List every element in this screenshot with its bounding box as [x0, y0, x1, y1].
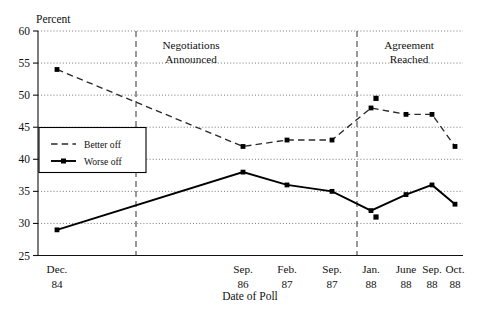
data-point-marker — [430, 183, 435, 188]
x-tick-label-year-1: 86 — [237, 278, 249, 290]
data-point-marker — [241, 144, 246, 149]
y-tick-label: 60 — [19, 25, 31, 37]
x-tick-label-month-6: Sep. — [422, 263, 442, 275]
x-tick-label-month-7: Oct. — [446, 263, 465, 275]
legend: Better off Worse off — [39, 128, 146, 173]
y-tick-label: 25 — [19, 250, 31, 262]
x-tick-label-year-3: 87 — [326, 278, 338, 290]
chart-svg: 2530354045505560 Percent Dec.84Sep.86Feb… — [0, 0, 479, 323]
x-tick-label-year-5: 88 — [400, 278, 412, 290]
y-tick-label: 35 — [19, 185, 31, 197]
x-tick-label-year-0: 84 — [51, 278, 63, 290]
y-tick-labels-group: 2530354045505560 — [19, 25, 31, 262]
y-tick-marks-group — [33, 31, 38, 256]
data-point-marker — [241, 170, 246, 175]
annotation-1-line1: Agreement — [384, 39, 435, 51]
annotation-0-line2: Announced — [165, 53, 217, 65]
annotation-1-line2: Reached — [390, 53, 429, 65]
annotation-0-line1: Negotiations — [162, 39, 219, 51]
x-tick-label-year-4: 88 — [365, 278, 377, 290]
isolated-data-point — [373, 214, 378, 219]
y-tick-label: 40 — [19, 153, 31, 165]
annotation-text-group: NegotiationsAnnouncedAgreementReached — [162, 39, 434, 65]
legend-label-better-off: Better off — [84, 139, 122, 150]
poll-line-chart: 2530354045505560 Percent Dec.84Sep.86Feb… — [0, 0, 479, 323]
series-line-worse-off — [57, 172, 455, 230]
data-point-marker — [55, 67, 60, 72]
data-point-marker — [330, 138, 335, 143]
y-tick-label: 55 — [19, 57, 31, 69]
data-point-marker — [404, 112, 409, 117]
x-tick-label-month-5: June — [396, 263, 417, 275]
x-axis-title: Date of Poll — [222, 290, 278, 302]
legend-label-worse-off: Worse off — [84, 156, 122, 167]
x-tick-label-month-1: Sep. — [233, 263, 253, 275]
extra-points-group — [373, 96, 378, 220]
data-point-marker — [285, 138, 290, 143]
x-tick-label-year-7: 88 — [449, 278, 461, 290]
legend-marker-worse-off — [61, 159, 66, 164]
data-point-marker — [55, 227, 60, 232]
x-tick-labels-group: Dec.84Sep.86Feb.87Sep.87Jan.88June88Sep.… — [47, 263, 465, 290]
data-point-marker — [453, 144, 458, 149]
x-tick-label-year-2: 87 — [281, 278, 293, 290]
x-tick-label-month-3: Sep. — [322, 263, 342, 275]
isolated-data-point — [373, 96, 378, 101]
data-point-marker — [369, 208, 374, 213]
data-point-marker — [285, 183, 290, 188]
x-tick-label-month-2: Feb. — [277, 263, 297, 275]
x-tick-label-year-6: 88 — [426, 278, 438, 290]
y-tick-label: 50 — [19, 89, 31, 101]
y-axis-title: Percent — [36, 13, 71, 25]
data-point-marker — [430, 112, 435, 117]
data-point-marker — [404, 192, 409, 197]
data-point-marker — [453, 202, 458, 207]
x-tick-label-month-4: Jan. — [362, 263, 380, 275]
data-point-marker — [369, 106, 374, 111]
x-tick-label-month-0: Dec. — [47, 263, 68, 275]
data-point-marker — [330, 189, 335, 194]
y-tick-label: 30 — [19, 217, 31, 229]
y-tick-label: 45 — [19, 121, 31, 133]
